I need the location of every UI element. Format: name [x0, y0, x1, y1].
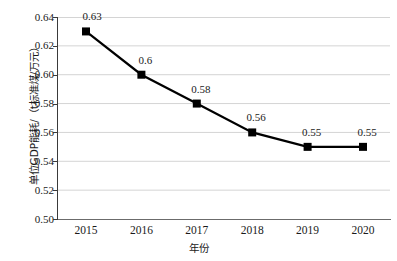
- plot-svg: [58, 17, 390, 219]
- x-axis-tick-label: 2017: [173, 224, 221, 237]
- x-axis-tick-label: 2016: [117, 224, 165, 237]
- data-point-label: 0.63: [75, 11, 109, 22]
- x-axis-tick-label: 2015: [62, 224, 110, 237]
- data-point-label: 0.6: [128, 55, 162, 66]
- data-point-label: 0.55: [350, 127, 384, 138]
- y-axis-tick-label: 0.62: [24, 40, 54, 51]
- y-axis-tick-mark: [53, 17, 58, 18]
- y-axis-tick-mark: [53, 104, 58, 105]
- y-axis-tick-mark: [53, 75, 58, 76]
- y-axis-tick-label: 0.60: [24, 69, 54, 80]
- y-axis-tick-label: 0.64: [24, 12, 54, 23]
- y-axis-tick-mark: [53, 46, 58, 47]
- y-axis-tick-mark: [53, 219, 58, 220]
- data-point-marker: [137, 71, 145, 79]
- y-axis-tick-label: 0.52: [24, 185, 54, 196]
- x-axis-title: 年份: [0, 240, 397, 255]
- data-point-marker: [304, 143, 312, 151]
- data-point-marker: [248, 128, 256, 136]
- x-axis-tick-label: 2019: [284, 224, 332, 237]
- data-point-marker: [193, 100, 201, 108]
- y-axis-tick-mark: [53, 132, 58, 133]
- y-axis-tick-label: 0.58: [24, 98, 54, 109]
- gridlines: [58, 18, 390, 191]
- y-axis-tick-mark: [53, 161, 58, 162]
- y-axis-tick-label: 0.56: [24, 127, 54, 138]
- data-point-marker: [82, 27, 90, 35]
- data-point-label: 0.55: [295, 127, 329, 138]
- line-chart: 单位GDP能耗/（t标准煤/万元） 0.640.620.600.580.560.…: [0, 0, 397, 261]
- y-axis-tick-mark: [53, 190, 58, 191]
- x-axis-line: [57, 219, 391, 220]
- data-point-marker: [359, 143, 367, 151]
- y-axis-tick-label: 0.54: [24, 156, 54, 167]
- data-point-label: 0.56: [239, 112, 273, 123]
- plot-area: [58, 17, 390, 219]
- x-axis-tick-label: 2018: [228, 224, 276, 237]
- y-axis-tick-label: 0.50: [24, 214, 54, 225]
- y-axis-tick-labels: 0.640.620.600.580.560.540.520.50: [22, 0, 54, 261]
- x-axis-tick-label: 2020: [339, 224, 387, 237]
- data-point-label: 0.58: [184, 84, 218, 95]
